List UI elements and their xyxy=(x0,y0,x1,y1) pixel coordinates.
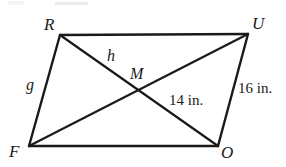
side-RU xyxy=(60,34,248,35)
intersection-label-M: M xyxy=(130,66,143,82)
diagonal-FU xyxy=(29,34,248,146)
segment-label-g: g xyxy=(26,77,34,93)
measurement-label-14in: 14 in. xyxy=(169,93,203,108)
geometry-diagram-canvas: R U O F M h g 14 in. 16 in. xyxy=(0,0,286,167)
measurement-label-16in: 16 in. xyxy=(238,81,272,96)
vertex-label-O: O xyxy=(221,144,233,161)
vertex-label-F: F xyxy=(9,143,19,160)
parallelogram-diagonals xyxy=(29,34,248,146)
vertex-label-R: R xyxy=(44,16,54,33)
vertex-label-U: U xyxy=(252,15,264,32)
segment-label-h: h xyxy=(107,48,115,64)
